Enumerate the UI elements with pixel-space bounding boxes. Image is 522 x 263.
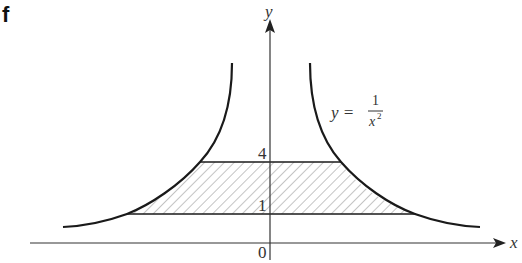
graph: x y 0 4 1 y = 1 x 2 [0,0,522,263]
diagram-canvas: f x y 0 4 1 y = [0,0,522,263]
equation-denominator: x [368,114,376,129]
equation-lhs: y = [329,103,354,122]
curve-equation-label: y = 1 x 2 [329,93,383,129]
y-tick-1: 1 [258,196,267,215]
y-axis-label: y [263,2,273,21]
equation-numerator: 1 [372,93,379,108]
x-axis-label: x [509,233,518,252]
y-tick-4: 4 [258,144,267,163]
equation-exponent: 2 [377,111,382,121]
origin-label: 0 [258,243,267,262]
